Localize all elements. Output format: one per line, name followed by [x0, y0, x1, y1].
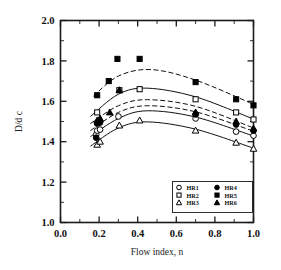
legend-marker-hr4	[215, 185, 220, 190]
y-tick-label: 1.4	[41, 136, 55, 147]
data-point-hr1	[97, 127, 103, 133]
legend-marker-hr1	[177, 185, 182, 190]
data-point-hr5	[115, 56, 120, 61]
legend: HR1HR2HR3HR4HR5HR6	[173, 182, 253, 213]
x-tick-label: 0.8	[208, 228, 221, 239]
x-tick-label: 0.6	[170, 228, 183, 239]
chart-canvas: 1.01.21.41.61.82.0 0.00.20.40.60.81.0 HR…	[0, 0, 281, 270]
legend-label-hr5: HR5	[225, 192, 237, 199]
y-tick-label: 1.0	[41, 217, 54, 228]
data-point-hr1	[233, 129, 239, 135]
data-point-hr2	[193, 97, 198, 102]
data-point-hr5	[137, 56, 142, 61]
data-point-hr5	[234, 97, 239, 102]
x-tick-label: 0.2	[93, 228, 106, 239]
data-point-hr2	[137, 87, 142, 92]
data-point-hr2	[234, 110, 239, 115]
y-axis-title: D/d c	[14, 111, 24, 132]
x-tick-label: 1.0	[247, 228, 260, 239]
data-point-hr5	[193, 80, 198, 85]
legend-label-hr3: HR3	[187, 199, 199, 206]
legend-label-hr6: HR6	[225, 199, 237, 206]
data-point-hr1	[116, 114, 122, 120]
legend-marker-hr5	[215, 193, 219, 197]
data-point-hr2	[95, 110, 100, 115]
data-point-hr4	[93, 135, 99, 141]
legend-marker-hr2	[177, 193, 181, 197]
data-point-hr5	[106, 79, 111, 84]
y-tick-label: 1.8	[41, 56, 54, 67]
data-point-hr5	[95, 93, 100, 98]
x-axis-title: Flow index, n	[131, 247, 184, 257]
chart-figure: 1.01.21.41.61.82.0 0.00.20.40.60.81.0 HR…	[0, 0, 281, 270]
y-tick-label: 2.0	[41, 15, 54, 26]
y-tick-label: 1.6	[41, 96, 54, 107]
legend-label-hr4: HR4	[225, 184, 237, 191]
y-tick-label: 1.2	[41, 177, 54, 188]
data-point-hr2	[251, 117, 256, 122]
data-point-hr5	[251, 103, 256, 108]
x-tick-label: 0.4	[131, 228, 145, 239]
x-tick-label: 0.0	[54, 228, 67, 239]
legend-label-hr1: HR1	[187, 184, 199, 191]
legend-label-hr2: HR2	[187, 192, 199, 199]
